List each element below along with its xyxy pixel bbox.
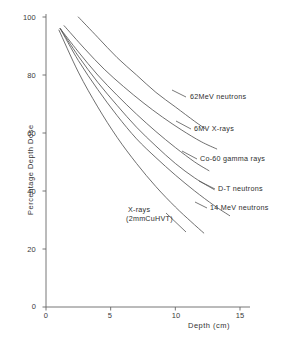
curve-2 <box>60 29 209 171</box>
x-tick-label-10: 10 <box>168 311 184 320</box>
curve-label-62mev-neutrons: 62MeV neutrons <box>190 92 246 101</box>
x-tick-label-0: 0 <box>38 311 54 320</box>
y-tick-label-100: 100 <box>8 13 36 22</box>
curve-label-xrays-2mmcuhvt-line2: (2mmCuHVT) <box>126 214 173 223</box>
axis-ticks <box>43 17 241 311</box>
curve-0 <box>78 17 205 129</box>
x-tick-label-15: 15 <box>232 311 248 320</box>
y-tick-label-0: 0 <box>8 302 36 311</box>
plot-area <box>0 0 305 337</box>
curve-3 <box>60 29 214 190</box>
curve-label-dt-neutrons: D-T neutrons <box>218 184 263 193</box>
y-tick-label-80: 80 <box>8 71 36 80</box>
curve-5 <box>59 30 204 233</box>
x-tick-label-5: 5 <box>102 311 118 320</box>
y-tick-label-20: 20 <box>8 245 36 254</box>
x-axis-title: Depth (cm) <box>188 321 230 330</box>
y-axis-title: Percentage Depth Dose <box>26 124 35 215</box>
depth-dose-chart: 100 80 60 40 20 0 0 5 10 15 Percentage D… <box>0 0 305 337</box>
curve-label-co60-gamma-rays: Co-60 gamma rays <box>200 154 265 163</box>
curve-label-6mv-xrays: 6MV X-rays <box>194 124 234 133</box>
curve-label-xrays-2mmcuhvt-line1: X-rays <box>128 205 150 214</box>
curve-label-14mev-neutrons: 14 MeV neutrons <box>210 203 269 212</box>
